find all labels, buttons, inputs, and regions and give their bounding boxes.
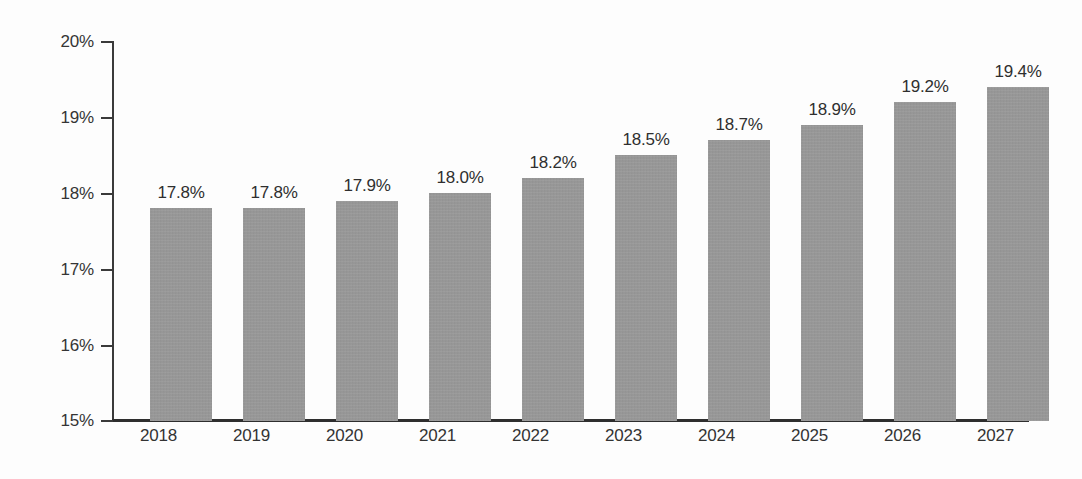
y-axis-tick-label: 15% xyxy=(36,412,94,429)
bar[interactable] xyxy=(150,208,212,421)
y-axis-tick-label: 20% xyxy=(36,33,94,50)
bar-slot: 17.8% xyxy=(205,41,298,421)
bar[interactable] xyxy=(522,178,584,421)
bar-slot: 17.8% xyxy=(112,41,205,421)
plot-area: 17.8%17.8%17.9%18.0%18.2%18.5%18.7%18.9%… xyxy=(112,41,1029,421)
y-axis-label-group: 16% xyxy=(30,337,94,354)
bar[interactable] xyxy=(336,201,398,421)
bar-slot: 18.7% xyxy=(670,41,763,421)
x-axis-tick-label: 2024 xyxy=(670,427,763,445)
y-axis-tick-label: 17% xyxy=(36,261,94,278)
bar[interactable] xyxy=(243,208,305,421)
y-axis-tick-label: 19% xyxy=(36,109,94,126)
y-axis-tick-label: 16% xyxy=(36,337,94,354)
x-axis-tick-label: 2025 xyxy=(763,427,856,445)
bar-slot: 19.4% xyxy=(949,41,1042,421)
x-axis-tick-label: 2020 xyxy=(298,427,391,445)
x-axis-tick-label: 2021 xyxy=(391,427,484,445)
y-axis-label-group: 19% xyxy=(30,109,94,126)
bar-slot: 18.9% xyxy=(763,41,856,421)
y-axis-label-group: 17% xyxy=(30,261,94,278)
x-axis-tick-label: 2019 xyxy=(205,427,298,445)
bar[interactable] xyxy=(894,102,956,421)
bar-slot: 18.0% xyxy=(391,41,484,421)
bar[interactable] xyxy=(801,125,863,421)
y-axis-tick-label: 18% xyxy=(36,185,94,202)
x-axis-tick-label: 2027 xyxy=(949,427,1042,445)
x-axis-tick-label: 2018 xyxy=(112,427,205,445)
bar[interactable] xyxy=(615,155,677,421)
y-axis-label-group: 20% xyxy=(30,33,94,50)
x-axis-tick-label: 2022 xyxy=(484,427,577,445)
y-axis-label-group: 18% xyxy=(30,185,94,202)
bar[interactable] xyxy=(429,193,491,421)
bar-slot: 19.2% xyxy=(856,41,949,421)
x-axis-tick-label: 2026 xyxy=(856,427,949,445)
bar[interactable] xyxy=(708,140,770,421)
x-axis-tick-label: 2023 xyxy=(577,427,670,445)
bar-slot: 18.5% xyxy=(577,41,670,421)
bar-slot: 17.9% xyxy=(298,41,391,421)
bar-value-label: 19.4% xyxy=(964,63,1072,81)
bar-chart: 20% 19% 18% 17% 16% 15% 17.8%17.8%17.9%1… xyxy=(0,0,1082,479)
y-axis-label-group: 15% xyxy=(30,412,94,429)
bar[interactable] xyxy=(987,87,1049,421)
bar-slot: 18.2% xyxy=(484,41,577,421)
